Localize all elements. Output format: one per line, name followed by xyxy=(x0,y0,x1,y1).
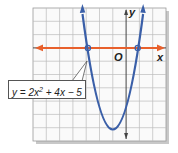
y-axis-label: y xyxy=(129,6,135,18)
coordinate-graph xyxy=(0,0,178,153)
equation-label: y = 2x2 + 4x − 5 xyxy=(8,80,86,99)
origin-label: O xyxy=(114,51,123,63)
equation-lhs: y = 2x xyxy=(12,87,39,98)
equation-rhs: + 4x − 5 xyxy=(43,87,82,98)
x-axis-label: x xyxy=(157,51,163,63)
